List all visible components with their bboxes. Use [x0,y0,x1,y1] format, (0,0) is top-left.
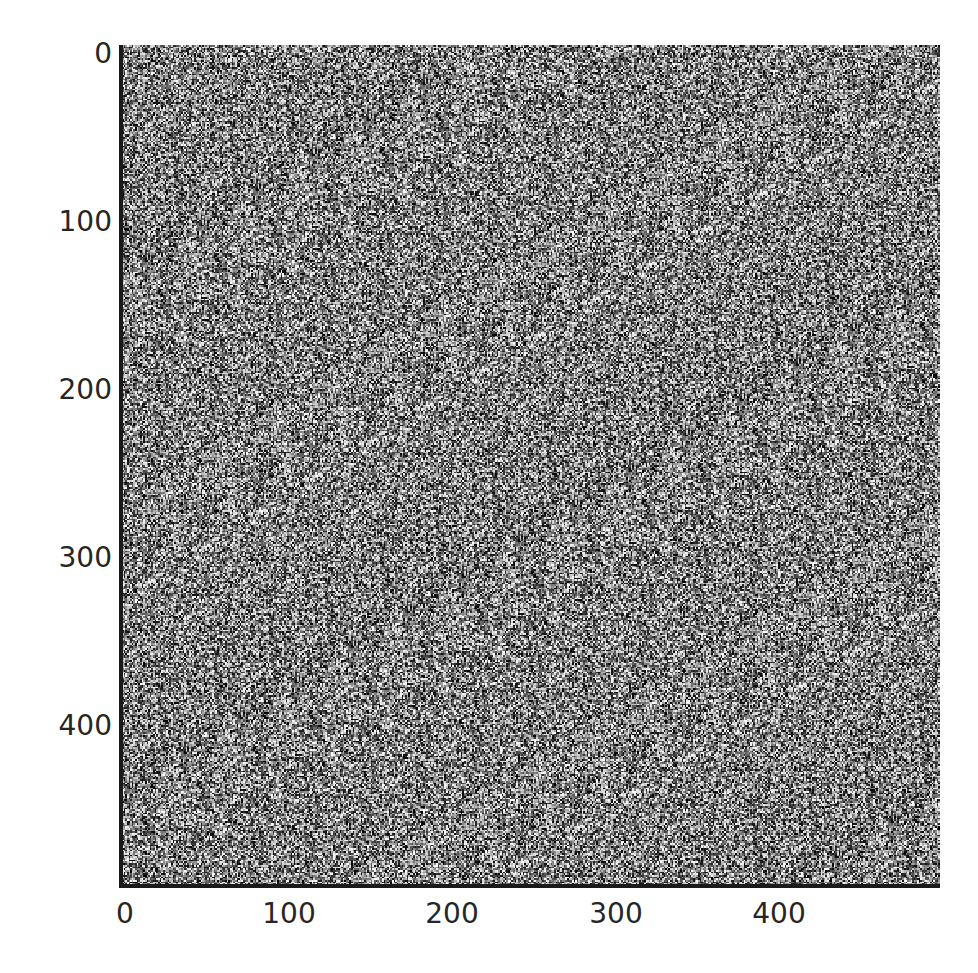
plot-area [122,45,940,885]
x-tick-label: 100 [239,900,339,928]
chart-title-cropped [0,0,978,4]
x-tick-label: 200 [402,900,502,928]
x-tick-label: 400 [729,900,829,928]
y-tick-label: 0 [12,40,112,68]
x-axis-spine [119,884,940,888]
y-axis-spine [119,45,123,888]
x-tick-label: 300 [566,900,666,928]
y-tick-label: 300 [12,544,112,572]
y-tick-label: 200 [12,376,112,404]
x-tick-label: 0 [75,900,175,928]
noise-image [122,45,940,885]
y-tick-label: 100 [12,208,112,236]
y-tick-label: 400 [12,712,112,740]
